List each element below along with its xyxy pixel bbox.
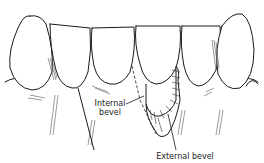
tooth-1 <box>10 16 53 90</box>
internal-bevel-leader <box>126 96 144 104</box>
tooth-4 <box>136 26 181 84</box>
internal-bevel-label-line1: Internal <box>93 99 127 108</box>
teeth-illustration <box>0 0 264 163</box>
tooth-3 <box>91 27 134 84</box>
internal-bevel-label: Internal bevel <box>93 99 127 117</box>
tooth-6 <box>217 14 254 89</box>
external-bevel-label: External bevel <box>155 152 215 161</box>
dental-diagram: Internal bevel External bevel <box>0 0 264 163</box>
tooth-2 <box>50 24 91 88</box>
internal-bevel-label-line2: bevel <box>93 108 127 117</box>
vertical-incision-line <box>78 88 94 150</box>
tooth-5 <box>181 26 220 86</box>
